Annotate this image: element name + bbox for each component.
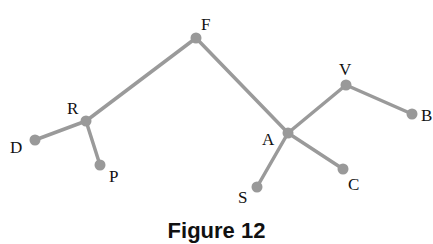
tree-nodes: [30, 33, 418, 193]
tree-edges: [35, 38, 412, 187]
node-label-P: P: [109, 167, 118, 186]
node-S: [252, 182, 263, 193]
edge-A-C: [288, 133, 343, 169]
figure-caption: Figure 12: [0, 218, 433, 244]
node-R: [81, 116, 92, 127]
node-label-S: S: [238, 188, 247, 207]
node-label-R: R: [67, 99, 79, 118]
tree-labels: FRDPAVBCS: [10, 15, 432, 207]
node-V: [341, 80, 352, 91]
node-label-F: F: [201, 15, 210, 34]
edge-V-B: [346, 85, 412, 114]
node-A: [283, 128, 294, 139]
node-label-B: B: [421, 106, 432, 125]
node-P: [95, 160, 106, 171]
edge-F-R: [86, 38, 196, 121]
node-F: [191, 33, 202, 44]
node-B: [407, 109, 418, 120]
node-D: [30, 135, 41, 146]
node-label-C: C: [348, 175, 359, 194]
node-C: [338, 164, 349, 175]
node-label-V: V: [339, 60, 352, 79]
node-label-A: A: [262, 130, 275, 149]
edge-R-P: [86, 121, 100, 165]
edge-R-D: [35, 121, 86, 140]
node-label-D: D: [10, 138, 22, 157]
edge-F-A: [196, 38, 288, 133]
edge-A-V: [288, 85, 346, 133]
